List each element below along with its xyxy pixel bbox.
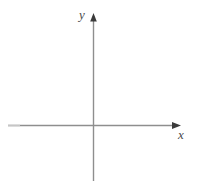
axes-svg: [0, 0, 197, 181]
y-axis-label: y: [79, 8, 85, 21]
x-axis-label: x: [178, 128, 184, 141]
coordinate-axes-figure: y x: [0, 0, 197, 181]
y-axis-arrow-icon: [90, 13, 97, 22]
